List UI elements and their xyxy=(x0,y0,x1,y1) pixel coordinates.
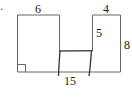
shape-outline xyxy=(18,15,121,72)
label-bottom-length: 15 xyxy=(64,75,76,87)
hand-drawn-notch-line xyxy=(60,51,93,52)
label-top-right-width: 4 xyxy=(103,3,109,15)
label-notch-depth: 5 xyxy=(96,27,102,39)
right-angle-marker xyxy=(18,65,26,73)
composite-shape-figure: . 6 4 5 8 15 xyxy=(0,0,132,100)
label-right-height: 8 xyxy=(124,39,130,51)
label-top-left-width: 6 xyxy=(35,3,41,15)
